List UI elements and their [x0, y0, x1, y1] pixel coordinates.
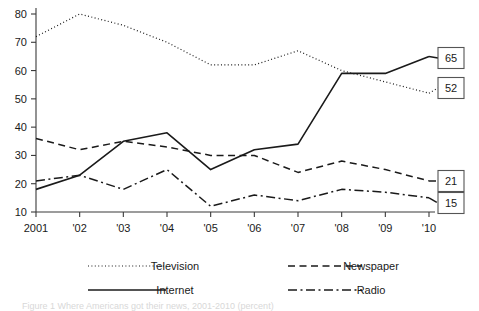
x-tick-label: '04 — [160, 222, 174, 234]
end-connector — [429, 198, 438, 203]
end-connector — [429, 88, 438, 93]
x-tick-label: '07 — [291, 222, 305, 234]
end-value-label: 52 — [445, 82, 457, 94]
chart-legend: TelevisionNewspaperInternetRadio — [88, 260, 399, 296]
x-tick-label: '05 — [203, 222, 217, 234]
chart-canvas: 1020304050607080 2001'02'03'04'05'06'07'… — [0, 0, 479, 311]
y-tick-label: 30 — [15, 149, 27, 161]
y-axis-ticks: 1020304050607080 — [15, 8, 36, 218]
y-tick-label: 60 — [15, 65, 27, 77]
line-chart: 1020304050607080 2001'02'03'04'05'06'07'… — [0, 0, 479, 311]
x-tick-label: '09 — [378, 222, 392, 234]
y-tick-label: 40 — [15, 121, 27, 133]
end-connector — [429, 56, 438, 58]
legend-label-internet: Internet — [156, 284, 193, 296]
end-value-label: 15 — [445, 197, 457, 209]
x-axis-ticks: 2001'02'03'04'05'06'07'08'09'10 — [24, 212, 436, 234]
series-line-radio — [36, 170, 429, 207]
series-line-television — [36, 14, 429, 93]
x-tick-label: '10 — [422, 222, 436, 234]
y-tick-label: 80 — [15, 8, 27, 20]
x-tick-label: '08 — [334, 222, 348, 234]
x-tick-label: '06 — [247, 222, 261, 234]
y-tick-label: 20 — [15, 178, 27, 190]
x-tick-label: '03 — [116, 222, 130, 234]
x-tick-label: 2001 — [24, 222, 48, 234]
legend-label-radio: Radio — [357, 284, 386, 296]
y-tick-label: 10 — [15, 206, 27, 218]
legend-label-newspaper: Newspaper — [343, 260, 399, 272]
figure-caption: Figure 1 Where Americans got their news,… — [0, 302, 479, 311]
x-tick-label: '02 — [72, 222, 86, 234]
legend-label-television: Television — [151, 260, 199, 272]
end-value-boxes: 65522115 — [429, 48, 464, 214]
end-value-label: 65 — [445, 52, 457, 64]
series-line-internet — [36, 56, 429, 189]
y-tick-label: 70 — [15, 36, 27, 48]
y-tick-label: 50 — [15, 93, 27, 105]
series-lines — [36, 14, 429, 206]
end-value-label: 21 — [445, 175, 457, 187]
